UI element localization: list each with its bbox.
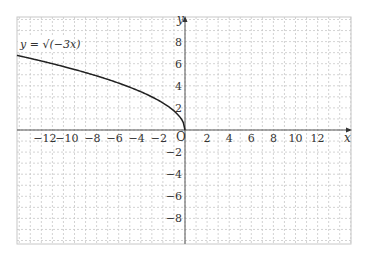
origin-label: O — [176, 130, 186, 144]
x-tick-label: 6 — [248, 132, 255, 145]
x-tick-label: 12 — [311, 132, 325, 145]
y-tick-label: −4 — [166, 168, 182, 181]
y-tick-label: −6 — [166, 190, 182, 203]
y-tick-label: −2 — [166, 146, 182, 159]
x-tick-label: −2 — [151, 132, 167, 145]
annotation-text: y = √(−3x) — [19, 38, 80, 51]
y-tick-label: 4 — [175, 80, 182, 93]
x-tick-label: 2 — [204, 132, 211, 145]
x-tick-label: −6 — [106, 132, 122, 145]
x-tick-label: −8 — [84, 132, 100, 145]
x-axis-label: x — [344, 131, 351, 145]
function-graph: −12−10−8−6−4−224681012 8642−2−4−6−8 O x … — [0, 0, 368, 259]
y-tick-label: 6 — [175, 58, 182, 71]
y-tick-label: 8 — [175, 36, 182, 49]
function-annotation: y = √(−3x) — [18, 37, 80, 51]
x-tick-label: −4 — [129, 132, 145, 145]
y-axis-label: y — [176, 12, 184, 26]
x-tick-label: 10 — [289, 132, 303, 145]
x-tick-label: 8 — [270, 132, 277, 145]
x-tick-label: 4 — [226, 132, 233, 145]
x-tick-label: −12 — [33, 132, 56, 145]
y-tick-label: −8 — [166, 212, 182, 225]
x-tick-label: −10 — [55, 132, 78, 145]
